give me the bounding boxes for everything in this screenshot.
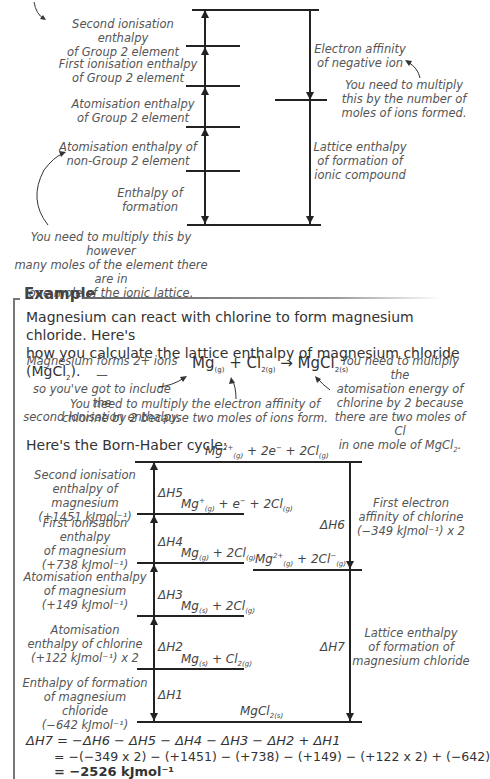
text-line: of magnesium bbox=[20, 584, 150, 598]
text-line: Second ionisation bbox=[20, 468, 150, 482]
step-dh5: ΔH5 bbox=[158, 486, 183, 500]
cycle-heading: Here's the Born-Haber cycle: bbox=[26, 436, 228, 454]
text-line: Atomisation enthalpy bbox=[20, 570, 150, 584]
arrow-down-icon bbox=[150, 713, 158, 721]
calc-result: = −2526 kJmol⁻¹ bbox=[54, 764, 174, 779]
text-line: enthalpy of chlorine bbox=[20, 637, 150, 651]
step-dh6: ΔH6 bbox=[320, 518, 345, 532]
text-line: Enthalpy of formation bbox=[20, 676, 150, 690]
text-line: First ionisation enthalpy bbox=[20, 516, 150, 544]
text-line: Atomisation bbox=[20, 623, 150, 637]
text-line: of magnesium bbox=[20, 544, 150, 558]
species-top: Mg2+(g) + 2e− + 2Cl(g) bbox=[205, 444, 329, 460]
label-electron-affinity: First electron affinity of chlorine (−34… bbox=[352, 496, 470, 538]
label-formation: Enthalpy of formation of magnesium chlor… bbox=[20, 676, 150, 732]
species-l2: Mg(s) + Cl2(g) bbox=[181, 652, 252, 668]
text-line: First electron bbox=[352, 496, 470, 510]
text-line: magnesium chloride bbox=[352, 654, 470, 668]
label-atom-mg: Atomisation enthalpy of magnesium (+149 … bbox=[20, 570, 150, 612]
step-dh4: ΔH4 bbox=[158, 535, 183, 549]
text-line: of magnesium chloride bbox=[20, 690, 150, 718]
calc-line-2: = −(−349 x 2) − (+1451) − (+738) − (+149… bbox=[54, 749, 490, 764]
right-vertical-arrow bbox=[349, 462, 351, 721]
text-line: of formation of bbox=[352, 640, 470, 654]
step-dh2: ΔH2 bbox=[158, 640, 183, 654]
species-l5: Mg+(g) + e− + 2Cl(g) bbox=[181, 497, 293, 513]
label-first-ie: First ionisation enthalpy of magnesium (… bbox=[20, 516, 150, 572]
arrow-up-icon bbox=[150, 462, 158, 470]
text-line: (+122 kJmol⁻¹) x 2 bbox=[20, 651, 150, 665]
text-line: Lattice enthalpy bbox=[352, 626, 470, 640]
step-dh1: ΔH1 bbox=[158, 688, 183, 702]
text-line: (+149 kJmol⁻¹) bbox=[20, 598, 150, 612]
arrow-up-icon bbox=[150, 515, 158, 523]
text-line: affinity of chlorine bbox=[352, 510, 470, 524]
arrow-down-icon bbox=[346, 713, 354, 721]
label-atom-cl: Atomisation enthalpy of chlorine (+122 k… bbox=[20, 623, 150, 665]
text-line: (−642 kJmol⁻¹) bbox=[20, 718, 150, 732]
arrow-down-icon bbox=[346, 561, 354, 569]
level-bottom bbox=[137, 721, 362, 723]
species-l4: Mg(g) + 2Cl(g) bbox=[181, 546, 256, 562]
text-line: enthalpy of magnesium bbox=[20, 482, 150, 510]
left-vertical-arrow bbox=[153, 462, 155, 721]
species-l4b: Mg2+(g) + 2Cl−(g) bbox=[255, 552, 346, 568]
arrow-up-icon bbox=[150, 617, 158, 625]
species-bottom: MgCl2(s) bbox=[240, 704, 283, 720]
species-l3: Mg(s) + 2Cl(g) bbox=[181, 599, 255, 615]
calc-line-1: ΔH7 = −ΔH6 − ΔH5 − ΔH4 − ΔH3 − ΔH2 + ΔH1 bbox=[26, 733, 340, 748]
arrow-up-icon bbox=[150, 564, 158, 572]
level-4b bbox=[253, 569, 362, 571]
text-line: (−349 kJmol⁻¹) x 2 bbox=[352, 524, 470, 538]
level-top bbox=[135, 461, 362, 463]
label-lattice: Lattice enthalpy of formation of magnesi… bbox=[352, 626, 470, 668]
step-dh7: ΔH7 bbox=[320, 640, 345, 654]
step-dh3: ΔH3 bbox=[158, 588, 183, 602]
